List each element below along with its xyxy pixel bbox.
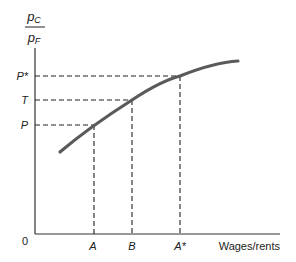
y-tick-p: P xyxy=(21,119,29,131)
y-tick-t: T xyxy=(21,94,29,106)
curve xyxy=(60,61,238,152)
guide-lines xyxy=(35,76,180,234)
y-tick-p-star: P* xyxy=(16,70,28,82)
diagram-canvas: pC pF P* T P 0 A B A* Wages/rents xyxy=(0,0,296,262)
x-tick-b: B xyxy=(128,240,135,252)
x-tick-a: A xyxy=(88,240,96,252)
origin-label: 0 xyxy=(22,235,28,247)
y-axis-label-numerator: pC xyxy=(26,9,41,25)
y-axis-label-denominator: pF xyxy=(27,30,41,46)
x-axis-label: Wages/rents xyxy=(219,240,281,252)
x-tick-a-star: A* xyxy=(173,240,186,252)
